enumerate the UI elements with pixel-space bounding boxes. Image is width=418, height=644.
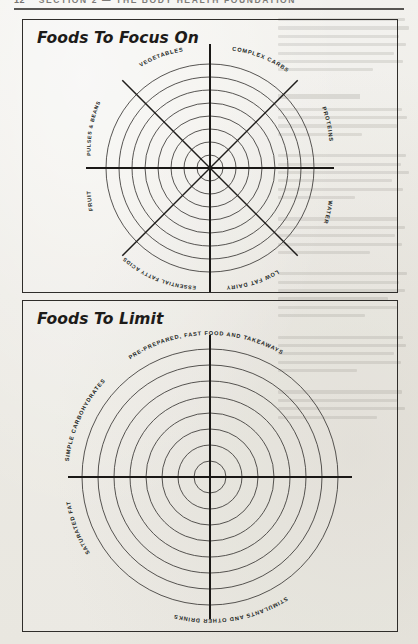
foods-to-limit-panel: Foods To Limit [22,300,398,632]
label-low-fat-dairy: LOW FAT DAIRY [226,269,280,291]
svg-text:LOW FAT DAIRY: LOW FAT DAIRY [226,269,280,291]
focus-wheel[interactable]: VEGETABLES COMPLEX CARBS PROTEINS WATER … [23,20,397,292]
label-saturated-fat: SATURATED FAT [65,500,91,555]
limit-wheel[interactable]: PRE-PREPARED, FAST FOOD AND TAKEAWAYS ST… [23,301,397,631]
label-complex-carbs: COMPLEX CARBS [232,46,291,74]
label-proteins: PROTEINS [321,106,334,142]
page-number: 12 [14,0,25,5]
svg-text:SATURATED FAT: SATURATED FAT [65,500,91,555]
running-head-title: SECTION 2 — THE BODY HEALTH FOUNDATION [39,0,296,5]
svg-text:WATER: WATER [323,200,334,225]
focus-wheel-svg[interactable]: VEGETABLES COMPLEX CARBS PROTEINS WATER … [23,20,397,292]
label-vegetables: VEGETABLES [138,46,184,68]
svg-text:STIMULANTS AND OTHER DRINKS: STIMULANTS AND OTHER DRINKS [173,596,289,624]
running-head-rule [14,8,404,10]
svg-text:COMPLEX CARBS: COMPLEX CARBS [232,46,291,74]
label-pulses-and-beans: PULSES & BEANS [86,100,102,156]
svg-text:ESSENTIAL FATTY ACIDS: ESSENTIAL FATTY ACIDS [121,256,196,291]
foods-to-focus-on-panel: Foods To Focus On [22,19,398,293]
svg-text:FRUIT: FRUIT [86,190,94,212]
svg-text:PRE-PREPARED, FAST FOOD AND TA: PRE-PREPARED, FAST FOOD AND TAKEAWAYS [127,330,284,360]
limit-wheel-svg[interactable]: PRE-PREPARED, FAST FOOD AND TAKEAWAYS ST… [23,301,397,631]
svg-text:PULSES & BEANS: PULSES & BEANS [86,100,102,156]
label-fruit: FRUIT [86,190,94,212]
limit-spokes [68,335,352,619]
running-head: 12 SECTION 2 — THE BODY HEALTH FOUNDATIO… [0,0,418,14]
label-stimulants-and-other-drinks: STIMULANTS AND OTHER DRINKS [173,596,289,624]
svg-text:VEGETABLES: VEGETABLES [138,46,184,68]
label-pre-prepared-fast-food: PRE-PREPARED, FAST FOOD AND TAKEAWAYS [127,330,284,360]
label-essential-fatty-acids: ESSENTIAL FATTY ACIDS [121,256,196,291]
svg-text:PROTEINS: PROTEINS [321,106,334,142]
label-water: WATER [323,200,334,225]
focus-spokes [86,44,334,292]
